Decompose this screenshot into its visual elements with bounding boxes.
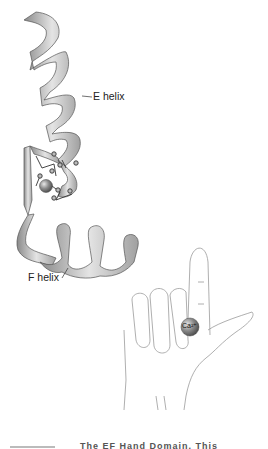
figure-number-bar [10, 446, 55, 448]
caption-text: The EF Hand Domain. This [80, 441, 218, 449]
ef-hand-figure [0, 0, 268, 449]
f-helix-label: F helix [28, 271, 59, 283]
figure-caption: The EF Hand Domain. This [0, 441, 268, 449]
calcium-ion-label: Ca²⁺ [182, 322, 197, 330]
e-helix-leader [82, 96, 92, 97]
calcium-ion-structure [40, 180, 53, 193]
e-helix-ribbon [24, 12, 80, 168]
f-helix-ribbon [40, 224, 138, 278]
e-helix-label: E helix [93, 90, 125, 102]
